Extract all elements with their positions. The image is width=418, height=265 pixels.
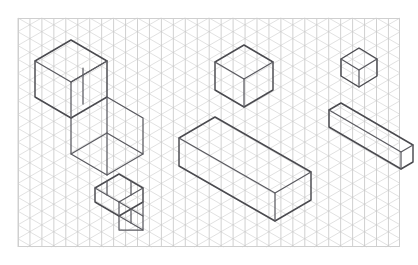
grid-line-diagonal-up (386, 239, 400, 247)
shapes-layer (35, 40, 413, 230)
large-stepped-block (35, 40, 143, 175)
grid-line-diagonal-up (338, 211, 400, 247)
grid-line-diagonal-up (362, 225, 400, 247)
grid-line-diagonal-up (51, 46, 400, 247)
isometric-drawing-canvas (0, 0, 418, 265)
isometric-drawing-svg (0, 0, 418, 265)
grid-line-diagonal-up (147, 101, 400, 247)
grid-layer (18, 18, 400, 247)
grid-line-diagonal-down (18, 59, 343, 247)
tiny-cube (341, 48, 377, 87)
flat-rectangular-slab-edge-1 (329, 110, 413, 152)
medium-cube (215, 45, 273, 107)
grid-line-diagonal-down (18, 32, 391, 247)
grid-line-diagonal-up (27, 32, 400, 247)
grid-line-diagonal-down (18, 115, 247, 247)
grid-line-diagonal-down (18, 197, 104, 247)
grid-line-diagonal-up (314, 197, 400, 247)
grid-line-diagonal-up (219, 142, 401, 247)
grid-line-diagonal-down (18, 142, 200, 247)
grid-line-diagonal-up (266, 170, 400, 247)
tiny-cube-edge-1 (341, 59, 377, 70)
grid-line-diagonal-up (123, 87, 400, 247)
grid-line-diagonal-down (18, 225, 56, 247)
grid-line-diagonal-down (18, 211, 80, 247)
large-stepped-block-edge-1 (35, 61, 107, 82)
